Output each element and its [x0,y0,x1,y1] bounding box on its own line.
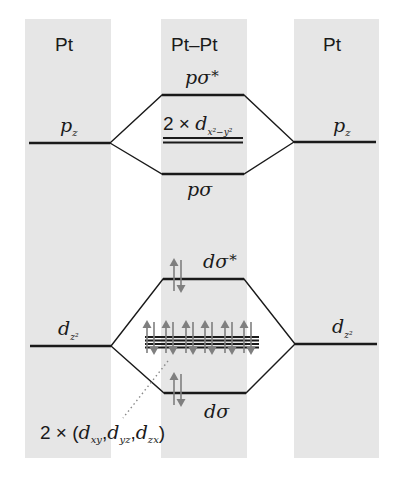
label-d-sigma-main: dσ [204,400,229,422]
label-p-sigma-star-main: pσ [185,66,210,88]
label-nonbonding-d: 2 × (dxy,dyz,dzx) [40,421,165,445]
label-pz-right: pz [333,114,350,138]
label-nonbonding-prefix: 2 × ( [40,422,79,443]
label-pz-right-sub: z [345,127,350,138]
label-pz-left-sub: z [72,127,77,138]
label-p-sigma-main: pσ [187,178,212,200]
label-dz2-left: dz² [58,317,79,342]
column-left-shade [25,19,111,458]
label-dx2y2-main: d [195,112,207,134]
label-d-sigma-star-main: dσ [203,250,228,272]
label-dx2y2-prefix: 2 × [163,113,195,134]
label-dzx-main: d [136,421,148,443]
label-dz2-left-main: d [58,317,70,339]
label-dyz-main: d [107,421,119,443]
label-p-sigma-star: pσ* [185,66,219,88]
column-header-center: Pt–Pt [171,34,217,56]
label-d-sigma-star-asterisk: * [229,251,237,269]
column-header-right: Pt [323,34,341,56]
mo-diagram: Pt Pt–Pt Pt pσ* pz pz 2 × dx²−y² pσ dσ* … [0,0,396,479]
column-right-shade [294,19,379,458]
label-dz2-right-sub: z² [344,330,352,340]
label-pz-left: pz [60,114,77,138]
label-dz2-left-sub: z² [70,332,78,342]
label-dxy-main: d [79,421,91,443]
label-dxy-sub: xy [91,434,102,445]
label-p-sigma-star-asterisk: * [211,67,219,85]
label-nonbonding-suffix: ) [159,422,165,443]
label-d-sigma-star: dσ* [203,250,237,272]
column-header-left: Pt [55,34,73,56]
label-dzx-sub: zx [148,434,159,445]
label-p-sigma: pσ [187,178,212,200]
label-dz2-right: dz² [332,315,353,340]
label-pz-left-main: p [60,114,72,136]
label-dz2-right-main: d [332,315,344,337]
label-pz-right-main: p [333,114,345,136]
label-dyz-sub: yz [119,434,130,445]
label-dx2y2: 2 × dx²−y² [163,112,232,137]
label-d-sigma: dσ [204,400,229,422]
label-dx2y2-sub: x²−y² [207,127,232,137]
